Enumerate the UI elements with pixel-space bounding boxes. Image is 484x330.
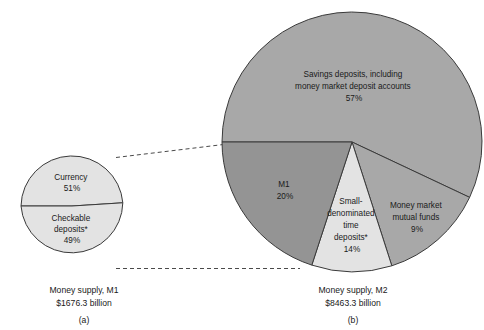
pie-money-supply-m1: Currency 51% Checkable deposits* 49% xyxy=(21,156,123,253)
pie-chart-figure: Currency 51% Checkable deposits* 49% Mon… xyxy=(0,0,484,330)
panel-letter-b: (b) xyxy=(348,315,359,325)
caption-m1-line1: Money supply, M1 xyxy=(49,285,118,295)
panel-letter-a: (a) xyxy=(79,315,90,325)
caption-m2-line1: Money supply, M2 xyxy=(318,285,387,295)
caption-m1-line2: $1676.3 billion xyxy=(56,298,112,308)
caption-money-supply-m2: Money supply, M2 $8463.3 billion (b) xyxy=(318,285,387,325)
pie-money-supply-m2: Savings deposits, including money market… xyxy=(222,12,482,272)
dashed-leader-upper xyxy=(116,143,240,158)
caption-m2-line2: $8463.3 billion xyxy=(325,298,381,308)
figure-canvas: Currency 51% Checkable deposits* 49% Mon… xyxy=(0,0,484,330)
caption-money-supply-m1: Money supply, M1 $1676.3 billion (a) xyxy=(49,285,118,325)
